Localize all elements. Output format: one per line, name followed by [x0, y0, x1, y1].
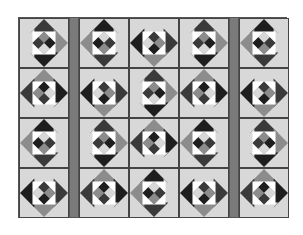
quilt-block — [179, 168, 229, 218]
quilt-block — [79, 168, 129, 218]
quilt-block — [239, 68, 289, 118]
quilt — [18, 17, 287, 218]
quilt-block — [179, 18, 229, 68]
quilt-block — [239, 118, 289, 168]
quilt-block — [179, 68, 229, 118]
quilt-block — [239, 168, 289, 218]
quilt-block — [129, 18, 179, 68]
quilt-block — [129, 118, 179, 168]
quilt-block — [239, 18, 289, 68]
quilt-block — [79, 118, 129, 168]
quilt-block — [19, 68, 69, 118]
sashing-strip — [69, 18, 79, 217]
quilt-block — [79, 68, 129, 118]
quilt-block — [179, 118, 229, 168]
quilt-block — [19, 168, 69, 218]
quilt-block — [129, 68, 179, 118]
quilt-block — [79, 18, 129, 68]
quilt-block — [129, 168, 179, 218]
sashing-strip — [229, 18, 239, 217]
quilt-block — [19, 18, 69, 68]
quilt-block — [19, 118, 69, 168]
